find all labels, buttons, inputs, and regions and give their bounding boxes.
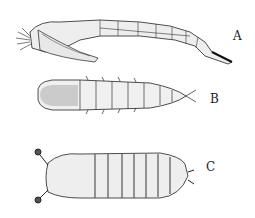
panel-label-c: C [206, 160, 215, 174]
illustration: A B [0, 0, 255, 218]
specimen-c [35, 149, 194, 203]
panel-label-b: B [210, 92, 219, 106]
specimen-b [38, 76, 196, 114]
specimen-a [16, 20, 232, 64]
figure: A B [0, 0, 255, 218]
panel-label-a: A [232, 29, 242, 43]
